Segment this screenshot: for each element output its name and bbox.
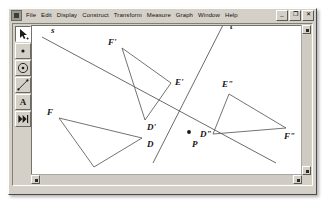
triangle-f-prime-e-prime-d-prime-vertex-label: D' xyxy=(146,122,156,132)
text-tool[interactable]: A xyxy=(15,94,31,110)
window-controls: _ ❐ ✕ xyxy=(276,10,314,21)
letter-a-icon: A xyxy=(16,95,30,109)
triangle-fde-vertex-label: D xyxy=(146,139,154,149)
menu-item-window[interactable]: Window xyxy=(198,11,220,20)
sketch-drawing: stFDEF'E'D'E"F"D"P xyxy=(32,26,302,175)
scroll-up-button[interactable] xyxy=(302,25,311,34)
custom-tool[interactable] xyxy=(15,111,31,127)
sketchpad-window: File Edit Display Construct Transform Me… xyxy=(8,8,317,195)
menu-item-transform[interactable]: Transform xyxy=(114,11,142,20)
triangle-fde-vertex-label: F xyxy=(46,107,53,117)
point-p-label: P xyxy=(192,139,198,149)
triangle-e-double-prime-f-double-prime-d-double-prime-vertex-label: E" xyxy=(221,79,233,89)
point-p[interactable] xyxy=(187,130,191,134)
horizontal-scroll-thumb[interactable] xyxy=(41,175,292,184)
line-t[interactable] xyxy=(153,26,223,163)
triangle-f-prime-e-prime-d-prime-vertex-label: F' xyxy=(107,37,117,47)
menu-item-construct[interactable]: Construct xyxy=(82,11,109,20)
restore-button[interactable]: ❐ xyxy=(289,10,301,21)
triangle-e-double-prime-f-double-prime-d-double-prime-vertex-label: F" xyxy=(283,131,295,141)
triangle-f-prime-e-prime-d-prime-vertex-label: E' xyxy=(174,77,184,87)
tool-palette: A xyxy=(14,25,30,184)
menu-item-display[interactable]: Display xyxy=(57,11,77,20)
scroll-right-button[interactable] xyxy=(293,175,302,184)
line-t-label: t xyxy=(230,26,233,31)
close-button[interactable]: ✕ xyxy=(302,10,314,21)
straightedge-tool[interactable] xyxy=(15,77,31,93)
menu-item-help[interactable]: Help xyxy=(225,11,238,20)
menu-bar: File Edit Display Construct Transform Me… xyxy=(9,9,316,22)
sketch-canvas[interactable]: stFDEF'E'D'E"F"D"P xyxy=(31,25,302,175)
vertical-scrollbar[interactable] xyxy=(301,25,311,175)
vertical-scroll-thumb[interactable] xyxy=(302,35,311,165)
scroll-down-button[interactable] xyxy=(302,166,311,175)
line-s-label: s xyxy=(50,26,55,35)
scrollbar-corner xyxy=(302,175,311,184)
document-frame: A stFDEF'E'D'E"F"D"P xyxy=(12,23,313,186)
menu-item-graph[interactable]: Graph xyxy=(176,11,193,20)
triangle-e-double-prime-f-double-prime-d-double-prime-vertex-label: D" xyxy=(199,129,212,139)
point-tool[interactable] xyxy=(15,43,31,59)
minimize-button[interactable]: _ xyxy=(276,10,288,21)
menu-item-edit[interactable]: Edit xyxy=(41,11,52,20)
selection-arrow-tool[interactable] xyxy=(15,26,31,42)
scroll-left-button[interactable] xyxy=(31,175,40,184)
compass-circle-tool[interactable] xyxy=(15,60,31,76)
triangle-fde[interactable] xyxy=(59,118,142,167)
menu-item-measure[interactable]: Measure xyxy=(147,11,171,20)
triangle-e-double-prime-f-double-prime-d-double-prime[interactable] xyxy=(213,94,286,134)
horizontal-scrollbar[interactable] xyxy=(31,174,302,184)
menu-item-file[interactable]: File xyxy=(26,11,36,20)
sketchpad-app-icon[interactable] xyxy=(11,10,22,21)
canvas-area: stFDEF'E'D'E"F"D"P xyxy=(31,25,311,184)
